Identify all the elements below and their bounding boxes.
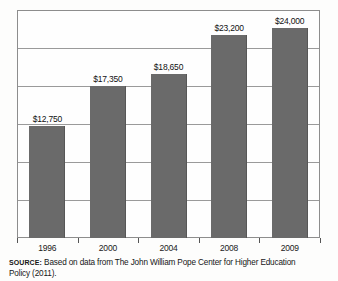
x-axis-tick bbox=[138, 238, 139, 243]
x-axis-tick bbox=[199, 238, 200, 243]
x-axis-label-2008: 2008 bbox=[220, 243, 238, 253]
bar-2004 bbox=[151, 74, 187, 238]
x-axis-label-2009: 2009 bbox=[281, 243, 299, 253]
x-axis-tick bbox=[78, 238, 79, 243]
x-axis-tick bbox=[259, 238, 260, 243]
source-line-2: Policy (2011). bbox=[9, 269, 56, 278]
bar-1996 bbox=[29, 126, 65, 238]
source-label: SOURCE: bbox=[9, 259, 42, 266]
value-label-1996: $12,750 bbox=[31, 114, 64, 124]
bar-2008 bbox=[211, 35, 247, 238]
value-label-2000: $17,350 bbox=[91, 74, 124, 84]
x-axis-label-2000: 2000 bbox=[99, 243, 117, 253]
bar-2000 bbox=[90, 86, 126, 238]
value-label-2008: $23,200 bbox=[212, 23, 245, 33]
bar-2009 bbox=[272, 28, 308, 238]
x-axis-label-2004: 2004 bbox=[159, 243, 177, 253]
value-label-2009: $24,000 bbox=[273, 16, 306, 26]
source-caption: SOURCE: Based on data from The John Will… bbox=[9, 258, 331, 279]
value-label-2004: $18,650 bbox=[152, 62, 185, 72]
source-line-1: Based on data from The John William Pope… bbox=[42, 258, 295, 267]
x-axis-tick bbox=[320, 238, 321, 243]
chart-figure: $12,750$17,350$18,650$23,200$24,000 1996… bbox=[0, 0, 338, 281]
x-axis-label-1996: 1996 bbox=[38, 243, 56, 253]
x-axis-tick bbox=[17, 238, 18, 243]
